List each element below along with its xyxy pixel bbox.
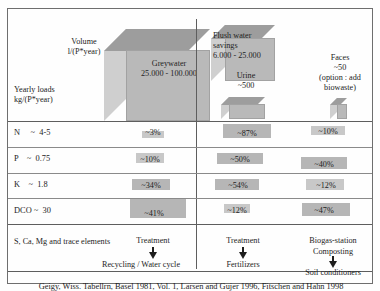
- greywater-dco-value: ~41%: [128, 208, 180, 219]
- row-rule-dco: [8, 224, 372, 225]
- faces-volume-box: [330, 98, 347, 119]
- row-label-p: P ~ 0.75: [14, 153, 50, 164]
- greywater-caption: Greywater 25.000 - 100.000: [128, 59, 210, 79]
- faces-k-value: ~12%: [304, 180, 348, 191]
- faces-product-label: Soil conditioners: [290, 267, 376, 278]
- urine-box-front: [229, 104, 265, 119]
- figure-root: Volume l/(P*year) Yearly loads kg/(P*yea…: [0, 0, 380, 291]
- figure-frame: Volume l/(P*year) Yearly loads kg/(P*yea…: [7, 8, 373, 284]
- row-label-n: N ~ 4-5: [14, 127, 50, 138]
- greywater-k-value: ~34%: [126, 180, 176, 191]
- greywater-p-value: ~10%: [125, 154, 175, 165]
- urine-treatment-label: Treatment: [204, 235, 282, 246]
- urine-p-value: ~50%: [216, 154, 264, 165]
- greywater-n-value: ~3%: [128, 127, 178, 138]
- faces-p-value: ~40%: [302, 159, 346, 170]
- row-label-dco: DCO ~ 30: [14, 205, 51, 216]
- urine-dco-value: ~12%: [213, 205, 261, 216]
- faces-n-value: ~10%: [306, 126, 350, 137]
- trace-elements-label: S, Ca, Mg and trace elements: [14, 237, 126, 248]
- greywater-treatment-label: Treatment: [114, 235, 192, 246]
- row-rule-p: [8, 173, 372, 174]
- faces-treatment-label: Biogas-station Composting: [292, 235, 374, 257]
- urine-arrow-head: [239, 252, 247, 259]
- greywater-arrow-head: [149, 252, 157, 259]
- row-rule-n: [8, 147, 372, 148]
- urine-k-value: ~54%: [214, 180, 262, 191]
- row-rule-k: [8, 198, 372, 199]
- urine-n-value: ~87%: [222, 128, 272, 139]
- flushwater-caption: Flush water savings 6.000 - 25.000: [213, 31, 291, 61]
- yearly-loads-axis-label: Yearly loads kg/(P*year): [14, 85, 98, 105]
- cropped-caption-sliver: [0, 0, 380, 8]
- row-label-k: K ~ 1.8: [14, 179, 48, 190]
- urine-caption: Urine ~500: [213, 71, 279, 91]
- header-bottom-rule: [8, 121, 372, 122]
- greywater-product-label: Recycling / Water cycle: [86, 259, 196, 270]
- source-citation: Geigy, Wiss. Tabellrn, Basel 1981, Vol. …: [8, 281, 374, 291]
- faces-dco-value: ~47%: [301, 205, 347, 216]
- urine-product-label: Fertilizers: [204, 259, 282, 270]
- column-divider: [196, 19, 197, 269]
- volume-axis-label: Volume l/(P*year): [46, 37, 122, 57]
- faces-caption: Faces ~50 (option : add biowaste): [300, 53, 380, 93]
- urine-volume-box: [221, 97, 265, 119]
- faces-box-front: [337, 104, 347, 119]
